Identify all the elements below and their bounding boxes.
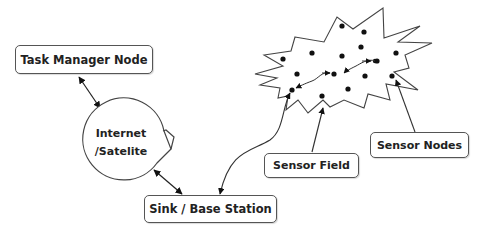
internet-label-line2: /Satelite: [86, 143, 156, 161]
edge-field-sink: [220, 93, 290, 194]
task-manager-node-box: Task Manager Node: [15, 45, 153, 74]
edge-internet-sink: [154, 170, 182, 194]
edge-task-internet: [79, 77, 100, 108]
sensor-field-box: Sensor Field: [264, 153, 359, 178]
sink-base-station-label: Sink / Base Station: [149, 202, 272, 216]
task-manager-node-label: Task Manager Node: [20, 53, 147, 67]
internet-satellite-label: Internet /Satelite: [86, 125, 156, 161]
sink-base-station-box: Sink / Base Station: [144, 195, 277, 223]
internet-label-line1: Internet: [86, 125, 156, 143]
sensor-field-label: Sensor Field: [273, 159, 350, 172]
sensor-nodes-box: Sensor Nodes: [370, 132, 469, 158]
pointer-sensor-field: [312, 108, 323, 152]
sensor-nodes-label: Sensor Nodes: [377, 139, 462, 152]
